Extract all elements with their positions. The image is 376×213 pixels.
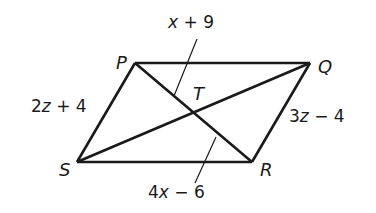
parallelogram-diagram: P Q S R T x + 9 2z + 4 3z − 4 4x − 6 [0, 0, 376, 213]
qr-op: − [309, 106, 334, 126]
tr-op: − [169, 182, 194, 202]
vertex-label-q: Q [318, 56, 332, 77]
vertex-label-s: S [59, 159, 70, 180]
vertex-label-p: P [116, 52, 127, 73]
ps-coef: 2 [31, 96, 42, 116]
pt-op: + [178, 12, 203, 32]
tr-coef: 4 [148, 182, 159, 202]
label-qr-expression: 3z − 4 [289, 106, 345, 126]
vertex-label-t: T [193, 83, 206, 104]
qr-coef: 3 [289, 106, 300, 126]
diagonal-sq [77, 63, 310, 162]
ps-const: 4 [76, 96, 87, 116]
pt-const: 9 [203, 12, 214, 32]
qr-const: 4 [334, 106, 345, 126]
leader-line-tr [195, 137, 216, 183]
tr-const: 6 [194, 182, 205, 202]
vertex-label-r: R [260, 159, 273, 180]
label-tr-expression: 4x − 6 [148, 182, 205, 202]
ps-op: + [51, 96, 76, 116]
label-ps-expression: 2z + 4 [31, 96, 87, 116]
label-pt-expression: x + 9 [167, 12, 214, 32]
